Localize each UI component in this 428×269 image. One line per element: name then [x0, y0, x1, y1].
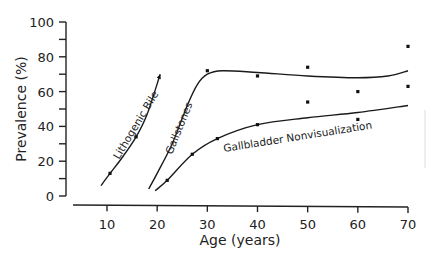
x-tick-label: 20 — [149, 217, 166, 232]
y-tick-label: 20 — [37, 154, 54, 169]
y-tick-label: 60 — [37, 85, 54, 100]
data-point — [406, 85, 409, 88]
data-point — [108, 172, 111, 175]
y-tick-label: 100 — [29, 15, 54, 30]
data-point — [206, 69, 209, 72]
label-gallstones: Gallstones — [163, 100, 195, 156]
label-gallbladder-nonvisualization: Gallbladder Nonvisualization — [222, 119, 372, 154]
arrow-head-icon — [157, 74, 161, 79]
data-point — [256, 74, 259, 77]
y-axis: 020406080100 — [29, 15, 66, 204]
x-tick-label: 40 — [249, 217, 266, 232]
data-point — [166, 179, 169, 182]
y-tick-label: 80 — [37, 50, 54, 65]
data-point — [256, 123, 259, 126]
x-tick-label: 10 — [99, 217, 116, 232]
data-point — [216, 137, 219, 140]
data-point — [191, 153, 194, 156]
data-point — [406, 45, 409, 48]
data-point — [306, 100, 309, 103]
data-point — [356, 90, 359, 93]
y-tick-label: 40 — [37, 119, 54, 134]
label-lithogenic-bile: Lithogenic Bile — [110, 89, 160, 161]
data-point — [306, 66, 309, 69]
x-axis-title: Age (years) — [200, 232, 281, 248]
x-tick-label: 30 — [199, 217, 216, 232]
prevalence-chart: 020406080100 10203040506070 Prevalence (… — [0, 0, 428, 269]
x-tick-label: 50 — [299, 217, 316, 232]
y-axis-title: Prevalence (%) — [13, 56, 29, 162]
x-axis: 10203040506070 — [73, 205, 416, 232]
x-tick-label: 60 — [350, 217, 367, 232]
y-tick-label: 0 — [46, 189, 54, 204]
x-tick-label: 70 — [400, 217, 417, 232]
series-layer — [101, 45, 410, 191]
